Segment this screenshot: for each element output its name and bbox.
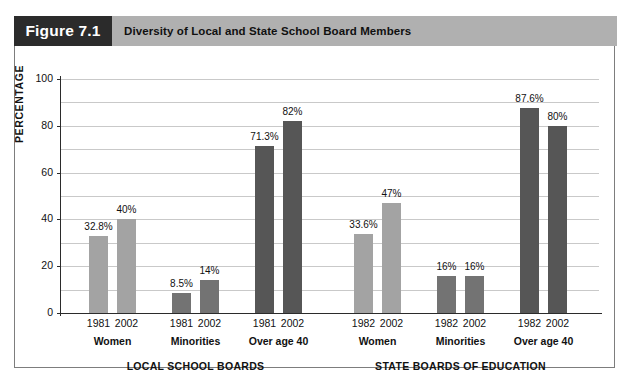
bar: [255, 146, 274, 313]
bar-value-label: 87.6%: [515, 93, 543, 104]
bar: [465, 276, 484, 313]
bar: [382, 203, 401, 313]
bar: [89, 236, 108, 313]
y-tick-label: 80: [27, 119, 53, 131]
bar: [354, 234, 373, 313]
bar: [437, 276, 456, 313]
group-label: Over age 40: [514, 335, 574, 347]
bar-value-label: 47%: [381, 188, 401, 199]
group-label: Minorities: [171, 335, 221, 347]
bar-value-label: 80%: [547, 111, 567, 122]
bar-value-label: 14%: [199, 265, 219, 276]
bar: [117, 219, 136, 313]
x-tick-label: 2002: [546, 317, 569, 329]
x-tick-label: 2002: [115, 317, 138, 329]
group-label: Minorities: [436, 335, 486, 347]
bar: [172, 293, 191, 313]
bar-value-label: 32.8%: [84, 221, 112, 232]
bar: [548, 126, 567, 313]
x-tick-label: 1981: [253, 317, 276, 329]
x-tick-label: 2002: [198, 317, 221, 329]
group-label: Women: [94, 335, 132, 347]
plot-area: 32.8%40%8.5%14%71.3%82%33.6%47%16%16%87.…: [61, 79, 599, 313]
bar-value-label: 33.6%: [349, 219, 377, 230]
x-tick-label: 2002: [380, 317, 403, 329]
x-tick-label: 2002: [463, 317, 486, 329]
bar: [520, 108, 539, 313]
x-tick-label: 2002: [281, 317, 304, 329]
panel-label: STATE BOARDS OF EDUCATION: [375, 360, 546, 372]
bar: [200, 280, 219, 313]
figure-container: Figure 7.1 Diversity of Local and State …: [0, 0, 631, 389]
y-tick-label: 40: [27, 212, 53, 224]
figure-number-tag: Figure 7.1: [14, 16, 112, 46]
x-tick-label: 1981: [87, 317, 110, 329]
group-label: Over age 40: [249, 335, 309, 347]
bar-value-label: 16%: [464, 261, 484, 272]
panel-label: LOCAL SCHOOL BOARDS: [127, 360, 265, 372]
bar-value-label: 16%: [436, 261, 456, 272]
bar-value-label: 82%: [282, 106, 302, 117]
bar-value-label: 40%: [116, 204, 136, 215]
x-tick-label: 1981: [170, 317, 193, 329]
bar-value-label: 71.3%: [250, 131, 278, 142]
group-label: Women: [359, 335, 397, 347]
x-tick-label: 1982: [435, 317, 458, 329]
x-tick-label: 1982: [518, 317, 541, 329]
figure-title: Diversity of Local and State School Boar…: [112, 16, 617, 46]
y-tick-label: 0: [27, 306, 53, 318]
x-tick-label: 1982: [352, 317, 375, 329]
bar-value-label: 8.5%: [170, 278, 193, 289]
y-tick-label: 100: [27, 72, 53, 84]
y-axis-title: PERCENTAGE: [13, 65, 25, 143]
y-tick-label: 20: [27, 259, 53, 271]
bar: [283, 121, 302, 313]
y-tick-label: 60: [27, 166, 53, 178]
figure-header: Figure 7.1 Diversity of Local and State …: [14, 16, 617, 46]
x-axis-line: [57, 313, 602, 314]
